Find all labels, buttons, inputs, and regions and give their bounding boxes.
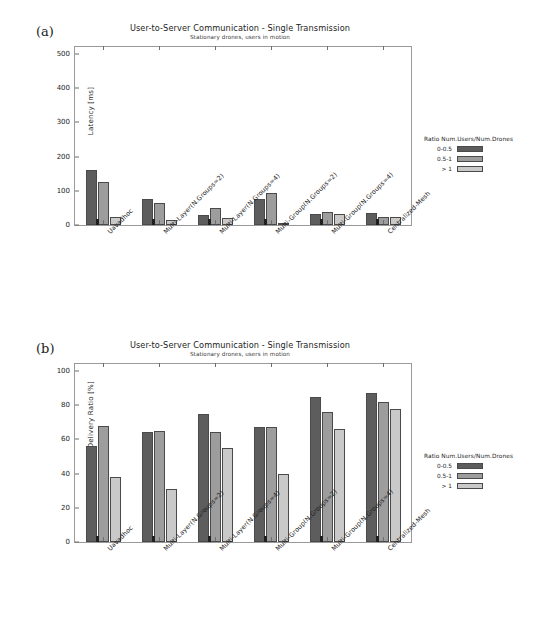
legend-label: 0.5-1 (424, 473, 452, 479)
legend-a: Ratio Num.Users/Num.Drones 0-0.5 0.5-1 >… (424, 136, 548, 175)
x-tick-mark (103, 363, 104, 367)
x-tick-mark (159, 220, 160, 224)
bar (378, 402, 389, 542)
bar-group-tick (320, 536, 323, 542)
bar-group (86, 47, 121, 225)
legend-row: 0-0.5 (424, 145, 548, 153)
bar (198, 414, 209, 542)
x-tick-mark (103, 537, 104, 541)
y-tick-mark (75, 53, 79, 54)
bar-group-tick (152, 536, 155, 542)
y-tick-label: 300 (57, 118, 70, 126)
y-tick-mark (75, 542, 79, 543)
x-tick-mark (383, 46, 384, 50)
legend-label: > 1 (424, 166, 452, 172)
y-tick-label: 80 (61, 401, 70, 409)
bar-group-tick (96, 536, 99, 542)
legend-label: > 1 (424, 483, 452, 489)
y-tick-mark (75, 122, 79, 123)
x-tick-mark (383, 363, 384, 367)
y-tick-mark (75, 473, 79, 474)
x-tick-mark (215, 46, 216, 50)
x-tick-mark (327, 363, 328, 367)
legend-swatch-icon (457, 483, 483, 489)
bar-group-tick (96, 219, 99, 225)
plot-wrap-b: Packet Delivery Ratio [%] 020406080100 U… (0, 335, 554, 635)
legend-swatch-icon (457, 463, 483, 469)
legend-row: > 1 (424, 482, 548, 490)
y-tick-mark (75, 370, 79, 371)
legend-row: 0.5-1 (424, 472, 548, 480)
legend-b: Ratio Num.Users/Num.Drones 0-0.5 0.5-1 >… (424, 453, 548, 492)
x-tick-mark (215, 220, 216, 224)
x-tick-mark (271, 537, 272, 541)
x-tick-mark (159, 363, 160, 367)
y-tick-label: 400 (57, 84, 70, 92)
y-tick-label: 200 (57, 153, 70, 161)
x-tick-mark (383, 220, 384, 224)
y-tick-mark (75, 439, 79, 440)
y-tick-mark (75, 88, 79, 89)
legend-row: > 1 (424, 165, 548, 173)
bar (98, 182, 109, 225)
bar-group-tick (208, 219, 211, 225)
bar (86, 170, 97, 225)
x-axis-labels-b: UavadhocMulti-Layer(N.Groups=2)Multi-Lay… (74, 547, 412, 636)
y-tick-label: 0 (66, 538, 70, 546)
legend-title-b: Ratio Num.Users/Num.Drones (424, 453, 548, 459)
y-tick-mark (75, 156, 79, 157)
y-tick-mark (75, 405, 79, 406)
bar-group-tick (264, 536, 267, 542)
legend-swatch-icon (457, 146, 483, 152)
bar (254, 427, 265, 542)
bar-group-tick (152, 219, 155, 225)
y-tick-label: 40 (61, 470, 70, 478)
x-tick-mark (327, 46, 328, 50)
legend-row: 0-0.5 (424, 462, 548, 470)
legend-label: 0.5-1 (424, 156, 452, 162)
bar-group-tick (264, 219, 267, 225)
figure-panel-b: (b) User-to-Server Communication - Singl… (0, 335, 554, 635)
plot-wrap-a: Latency [ms] 0100200300400500 UavadhocMu… (0, 18, 554, 318)
x-tick-mark (383, 537, 384, 541)
page-running-header (0, 0, 554, 14)
x-tick-mark (215, 363, 216, 367)
x-tick-mark (215, 537, 216, 541)
x-axis-labels-a: UavadhocMulti-Layer(N.Groups=2)Multi-Lay… (74, 230, 412, 320)
bar-group-tick (320, 219, 323, 225)
bar (390, 409, 401, 543)
x-tick-mark (159, 46, 160, 50)
x-tick-mark (271, 46, 272, 50)
y-tick-mark (75, 507, 79, 508)
legend-swatch-icon (457, 473, 483, 479)
y-tick-label: 60 (61, 435, 70, 443)
x-tick-mark (327, 220, 328, 224)
bar-group-tick (208, 536, 211, 542)
y-tick-mark (75, 225, 79, 226)
y-tick-label: 0 (66, 221, 70, 229)
legend-swatch-icon (457, 156, 483, 162)
bar (334, 429, 345, 542)
y-tick-label: 500 (57, 50, 70, 58)
x-tick-mark (103, 220, 104, 224)
bar (154, 431, 165, 542)
legend-label: 0-0.5 (424, 463, 452, 469)
legend-label: 0-0.5 (424, 146, 452, 152)
x-tick-mark (103, 46, 104, 50)
legend-row: 0.5-1 (424, 155, 548, 163)
bar-group (86, 364, 121, 542)
bar (210, 432, 221, 542)
bar (142, 432, 153, 542)
figure-panel-a: (a) User-to-Server Communication - Singl… (0, 18, 554, 318)
y-tick-label: 100 (57, 187, 70, 195)
bar-group-tick (376, 536, 379, 542)
legend-title-a: Ratio Num.Users/Num.Drones (424, 136, 548, 142)
y-tick-mark (75, 190, 79, 191)
x-tick-mark (271, 220, 272, 224)
bar (266, 427, 277, 542)
y-tick-label: 20 (61, 504, 70, 512)
bar-group (142, 47, 177, 225)
x-tick-mark (327, 537, 328, 541)
y-tick-label: 100 (57, 367, 70, 375)
bar-group-tick (376, 219, 379, 225)
